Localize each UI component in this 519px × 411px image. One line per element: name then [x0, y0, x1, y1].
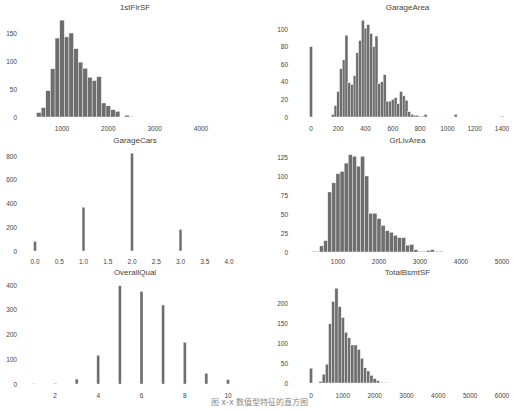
- histogram-bar: [55, 38, 60, 117]
- histogram-bar: [373, 379, 376, 383]
- histogram-bar: [140, 291, 143, 384]
- histogram-bar: [369, 213, 373, 252]
- histogram-bar: [341, 317, 344, 383]
- x-tick-label: 2.0: [127, 258, 136, 265]
- x-tick-label: 0.5: [55, 258, 64, 265]
- histogram-bar: [310, 47, 313, 117]
- histogram-bar: [376, 381, 379, 383]
- y-tick-label: 40: [281, 78, 289, 85]
- x-tick-label: 800: [415, 125, 426, 132]
- y-tick-label: 50: [281, 360, 289, 367]
- histogram-bar: [162, 305, 165, 384]
- x-tick-label: 3000: [147, 125, 162, 132]
- chart-title: GrLivArea: [389, 136, 426, 145]
- y-tick-label: 50: [10, 86, 18, 93]
- histogram-bar: [332, 183, 336, 252]
- histogram-bar: [381, 225, 385, 252]
- x-tick-label: 1.5: [103, 258, 112, 265]
- x-tick-label: 0.0: [30, 258, 39, 265]
- chart-title: OverallQual: [114, 268, 156, 277]
- y-tick-label: 300: [6, 306, 17, 313]
- y-tick-label: 400: [6, 200, 17, 207]
- histogram-bar: [424, 114, 427, 117]
- x-tick-label: 4000: [194, 125, 209, 132]
- histogram-bar: [34, 241, 37, 251]
- histogram-bar: [365, 176, 369, 252]
- histogram-bar: [226, 380, 229, 384]
- y-tick-label: 100: [277, 26, 288, 33]
- histogram-bar: [205, 373, 208, 384]
- histogram-bar: [410, 244, 414, 252]
- x-tick-label: 1000: [55, 125, 70, 132]
- histogram-bar: [332, 301, 335, 383]
- histogram-bar: [418, 251, 422, 252]
- histogram-bar: [402, 238, 406, 252]
- y-tick-label: 60: [281, 61, 289, 68]
- y-tick-label: 125: [277, 154, 288, 161]
- histogram-bar: [64, 37, 69, 117]
- histogram-garagearea: GarageArea020406080100020040060080010001…: [277, 3, 509, 132]
- x-tick-label: 1000: [440, 125, 455, 132]
- histogram-bar: [351, 345, 354, 383]
- y-tick-label: 100: [6, 356, 17, 363]
- x-tick-label: 3.0: [176, 258, 185, 265]
- y-tick-label: 200: [277, 300, 288, 307]
- histogram-bar: [385, 231, 389, 252]
- histogram-bar: [348, 338, 351, 383]
- histogram-bar: [131, 153, 134, 251]
- x-tick-label: 3.5: [200, 258, 209, 265]
- histogram-bar: [393, 235, 397, 252]
- x-tick-label: 3000: [413, 258, 428, 265]
- x-tick-label: 2.5: [152, 258, 161, 265]
- y-tick-label: 0: [13, 381, 17, 388]
- y-tick-label: 200: [6, 331, 17, 338]
- histogram-bar: [422, 251, 426, 252]
- histogram-bar: [373, 213, 377, 252]
- y-tick-label: 25: [281, 230, 289, 237]
- x-tick-label: 1200: [467, 125, 482, 132]
- histogram-bar: [183, 342, 186, 384]
- histogram-bar: [106, 106, 111, 117]
- histogram-bar: [377, 219, 381, 252]
- figure-caption: 图 x-x 数值型特征的直方图: [0, 396, 519, 407]
- histogram-bar: [53, 383, 56, 384]
- chart-title: TotalBsmtSF: [385, 268, 430, 277]
- y-tick-label: 100: [277, 173, 288, 180]
- histogram-bar: [370, 375, 373, 383]
- x-tick-label: 2000: [372, 258, 387, 265]
- histogram-bar: [97, 355, 100, 384]
- histogram-bar: [434, 251, 438, 252]
- histogram-bar: [336, 174, 340, 252]
- histogram-bar: [83, 68, 88, 117]
- histogram-bar: [82, 207, 85, 251]
- y-tick-label: 75: [281, 192, 289, 199]
- histogram-bar: [352, 156, 356, 252]
- y-tick-label: 200: [6, 224, 17, 231]
- y-tick-label: 0: [284, 249, 288, 256]
- histogram-bar: [335, 288, 338, 383]
- histogram-bar: [329, 324, 332, 383]
- histogram-totalbsmtsf: TotalBsmtSF05010015020001000200030004000…: [277, 268, 509, 399]
- histogram-bar: [364, 368, 367, 383]
- y-tick-label: 150: [277, 320, 288, 327]
- histogram-bar: [348, 155, 352, 252]
- y-tick-label: 400: [6, 282, 17, 289]
- x-tick-label: 4.0: [224, 258, 233, 265]
- histogram-bar: [324, 241, 328, 252]
- histogram-bar: [69, 33, 74, 117]
- histogram-bar: [357, 349, 360, 383]
- histogram-bar: [406, 245, 410, 252]
- y-tick-label: 150: [6, 30, 17, 37]
- x-tick-label: 1000: [331, 258, 346, 265]
- histogram-bar: [87, 77, 92, 117]
- histogram-bar: [50, 69, 55, 117]
- histogram-bar: [397, 238, 401, 252]
- histogram-bar: [320, 246, 324, 252]
- histogram-bar: [344, 332, 347, 383]
- y-tick-label: 800: [6, 153, 17, 160]
- histogram-grid-figure: 1stFlrSF0501001501000200030004000 Garage…: [0, 0, 519, 411]
- histogram-bar: [32, 384, 35, 385]
- chart-title: GarageCars: [113, 136, 157, 145]
- histogram-bar: [338, 307, 341, 383]
- histogram-bar: [60, 20, 65, 117]
